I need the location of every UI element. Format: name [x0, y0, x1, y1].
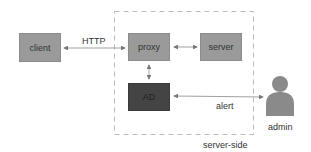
group-label-server-side: server-side [203, 140, 248, 150]
edge-ad-admin [174, 96, 263, 97]
node-client-label: client [29, 43, 50, 53]
server-side-group-border [115, 12, 254, 135]
node-proxy-label: proxy [138, 42, 160, 52]
node-proxy[interactable]: proxy [128, 33, 170, 61]
diagram-canvas [0, 0, 311, 152]
edge-label-alert: alert [216, 101, 234, 111]
node-server-label: server [208, 42, 233, 52]
node-server[interactable]: server [200, 33, 242, 61]
node-admin-label: admin [268, 122, 293, 132]
edge-label-http: HTTP [82, 36, 106, 46]
node-client[interactable]: client [19, 33, 61, 62]
person-icon [266, 76, 294, 116]
node-ad[interactable]: AD [128, 83, 170, 111]
node-ad-label: AD [143, 92, 156, 102]
